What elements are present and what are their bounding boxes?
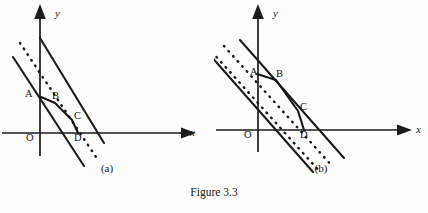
point-label-a-D: D (74, 132, 82, 143)
origin-label-b: O (244, 129, 252, 140)
x-axis-label-a: x (190, 126, 195, 138)
y-axis-label-a: y (55, 7, 60, 19)
point-label-b-C: C (300, 101, 307, 112)
y-axis-arrowhead-b (252, 4, 264, 19)
point-label-a-A: A (25, 88, 33, 99)
solid-constraint-line-upper-a (40, 38, 104, 143)
y-axis-label-b: y (273, 7, 278, 19)
panel-b: y x O A B C D (b) (214, 0, 428, 195)
panel-a: y x O A B C D (a) (0, 0, 214, 195)
origin-label-a: O (26, 132, 34, 143)
subcaption-b: (b) (214, 162, 428, 174)
point-label-b-D: D (300, 129, 308, 140)
figure-3-3: y x O A B C D (a) y x O A (0, 0, 428, 213)
figure-caption: Figure 3.3 (0, 186, 428, 198)
dotted-objective-line-upper-b (224, 46, 333, 167)
solid-constraint-line-upper-b (240, 40, 344, 158)
point-label-b-A: A (250, 66, 258, 77)
x-axis-arrowhead-b (397, 124, 412, 135)
point-label-b-B: B (276, 68, 283, 79)
point-label-a-B: B (52, 90, 59, 101)
subcaption-a: (a) (0, 162, 214, 174)
point-label-a-C: C (74, 110, 81, 121)
y-axis-arrowhead-a (34, 4, 46, 19)
vertex-path-abcd-b (257, 74, 304, 130)
x-axis-label-b: x (416, 123, 421, 135)
